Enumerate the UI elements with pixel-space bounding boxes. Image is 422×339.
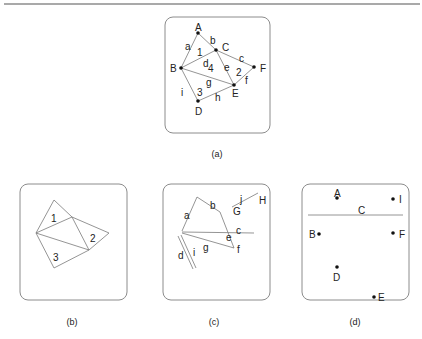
panel-a-frame xyxy=(165,17,270,133)
panel-b-faces: 123(b) xyxy=(20,184,127,327)
edge-label: g xyxy=(206,77,212,88)
face-label: 3 xyxy=(197,87,203,98)
vertex-D xyxy=(196,99,200,103)
vertex-B xyxy=(179,66,183,70)
point-label: H xyxy=(259,195,266,206)
face-label: 1 xyxy=(51,213,57,224)
point-label: F xyxy=(399,229,405,240)
edge-label: i xyxy=(181,87,183,98)
line-label: C xyxy=(358,205,365,216)
segment-label: j xyxy=(239,194,242,205)
face-label: 2 xyxy=(90,233,96,244)
face-label: 3 xyxy=(53,252,59,263)
point-I xyxy=(391,197,395,201)
segment-label: e xyxy=(226,232,232,243)
vertex-label: F xyxy=(260,63,266,74)
panel-c-frame xyxy=(163,184,270,300)
panel-c-segments: abecgjdifGH(c) xyxy=(163,184,270,327)
point-label: A xyxy=(334,188,341,199)
point-label: B xyxy=(309,229,316,240)
panel-b-caption: (b) xyxy=(67,317,78,327)
vertex-C xyxy=(214,48,218,52)
vertex-label: D xyxy=(195,106,202,117)
vertex-label: C xyxy=(222,42,229,53)
point-label: I xyxy=(399,194,402,205)
panel-a-graph: abcdefghiABCDEF1234(a) xyxy=(165,17,270,159)
edge-label: a xyxy=(185,41,191,52)
panel-a-caption: (a) xyxy=(212,149,223,159)
edge-label: e xyxy=(224,62,230,73)
point-F xyxy=(391,231,395,235)
point-label: E xyxy=(378,292,385,303)
vertex-label: E xyxy=(232,88,239,99)
panel-c-caption: (c) xyxy=(209,317,220,327)
segment-label: b xyxy=(210,200,216,211)
edge-label: c xyxy=(239,53,244,64)
vertex-F xyxy=(252,65,256,69)
panel-d-points: CAIBFDE(d) xyxy=(302,184,409,327)
face-label: 1 xyxy=(197,47,203,58)
vertex-E xyxy=(232,83,236,87)
segment-label: a xyxy=(184,210,190,221)
panel-d-frame xyxy=(302,184,409,300)
point-D xyxy=(335,265,339,269)
segment-label: g xyxy=(203,242,209,253)
segment-label: d xyxy=(178,250,184,261)
edge-label: f xyxy=(245,75,248,86)
segment-label: i xyxy=(193,247,195,258)
segment-label: c xyxy=(236,225,241,236)
point-label: f xyxy=(237,244,240,255)
vertex-label: B xyxy=(170,63,177,74)
face-label: 4 xyxy=(208,63,214,74)
point-label: G xyxy=(233,206,241,217)
vertex-label: A xyxy=(195,22,202,33)
point-label: D xyxy=(333,272,340,283)
figure-canvas: abcdefghiABCDEF1234(a) 123(b) abecgjdifG… xyxy=(0,0,422,339)
point-B xyxy=(317,232,321,236)
edge-label: h xyxy=(215,92,221,103)
edge-label: b xyxy=(210,35,216,46)
point-E xyxy=(372,295,376,299)
panel-b-frame xyxy=(20,184,127,300)
panel-d-caption: (d) xyxy=(350,317,361,327)
face-label: 2 xyxy=(236,67,242,78)
